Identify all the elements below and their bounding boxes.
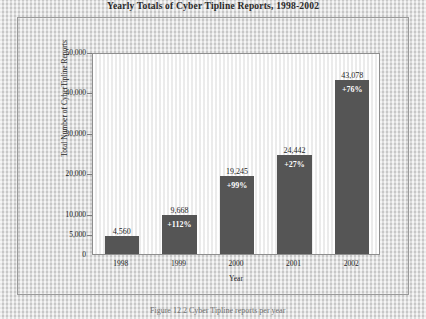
y-axis-tick-label: 5,000	[34, 230, 86, 239]
bar-percent-change-label: +112%	[162, 220, 197, 229]
x-axis-tick-label: 2000	[207, 259, 265, 268]
y-axis-tick-label: 30,000	[34, 129, 86, 138]
bar-percent-change-label: +76%	[335, 85, 370, 94]
bar-percent-change-label: +99%	[220, 181, 255, 190]
x-axis-tick-label: 1998	[92, 259, 150, 268]
y-axis-tick-label: 20,000	[34, 169, 86, 178]
y-axis-tick-label: 40,000	[34, 88, 86, 97]
bar-percent-change-label: +27%	[277, 160, 312, 169]
y-axis-tick-label: 50,000	[34, 48, 86, 57]
bar	[277, 155, 312, 254]
bar	[335, 80, 370, 254]
x-axis-tick-label: 2002	[322, 259, 380, 268]
bar-value-label: 24,442	[267, 146, 322, 155]
plot-area: 4,5609,668+112%19,245+99%24,442+27%43,07…	[92, 53, 380, 255]
y-axis-tick-label: 10,000	[34, 210, 86, 219]
bar	[105, 236, 140, 254]
bar-value-label: 9,668	[152, 206, 207, 215]
bar-value-label: 4,560	[95, 227, 150, 236]
y-axis-tick-label: 0	[34, 250, 86, 259]
bar-value-label: 43,078	[325, 71, 380, 80]
chart-title: Yearly Totals of Cyber Tipline Reports, …	[0, 1, 426, 11]
scanned-page: Yearly Totals of Cyber Tipline Reports, …	[0, 0, 426, 319]
bar-value-label: 19,245	[210, 167, 265, 176]
figure-caption: Figure 12.2 Cyber Tipline reports per ye…	[150, 306, 426, 315]
x-axis-tick-label: 1999	[150, 259, 208, 268]
x-axis-title: Year	[92, 274, 380, 283]
x-axis-tick-label: 2001	[265, 259, 323, 268]
